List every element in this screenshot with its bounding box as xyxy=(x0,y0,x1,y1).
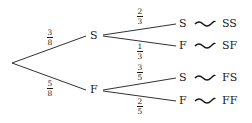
result-fs: FS xyxy=(222,72,237,83)
prob-s-s: 2 3 xyxy=(137,8,143,25)
numerator: 1 xyxy=(138,43,143,51)
node-s: S xyxy=(90,30,98,41)
numerator: 3 xyxy=(138,64,143,72)
numerator: 2 xyxy=(138,98,143,106)
result-ss: SS xyxy=(222,18,237,29)
tilde-ff xyxy=(195,98,215,103)
branch-s-s xyxy=(103,24,176,35)
tilde-ss xyxy=(195,21,215,26)
prob-s-f: 1 3 xyxy=(137,43,143,60)
probability-tree-diagram: S F 3 8 5 8 2 3 1 3 3 5 2 5 S F S F SS S… xyxy=(0,0,252,123)
tilde-fs xyxy=(195,75,215,80)
node-s-f: F xyxy=(179,40,187,51)
tree-branches xyxy=(0,0,252,123)
result-sf: SF xyxy=(222,40,237,51)
node-f-f: F xyxy=(179,95,187,106)
prob-root-s: 3 8 xyxy=(47,29,53,46)
prob-root-f: 5 8 xyxy=(47,80,53,97)
prob-f-s: 3 5 xyxy=(137,64,143,81)
result-ff: FF xyxy=(222,95,237,106)
denominator: 8 xyxy=(48,90,53,98)
node-s-s: S xyxy=(179,18,187,29)
prob-f-f: 2 5 xyxy=(137,98,143,115)
tilde-sf xyxy=(195,43,215,48)
numerator: 3 xyxy=(48,29,53,37)
denominator: 5 xyxy=(138,108,143,116)
numerator: 2 xyxy=(138,8,143,16)
denominator: 5 xyxy=(138,74,143,82)
node-f-s: S xyxy=(179,72,187,83)
denominator: 3 xyxy=(138,53,143,61)
denominator: 8 xyxy=(48,39,53,47)
denominator: 3 xyxy=(138,18,143,26)
numerator: 5 xyxy=(48,80,53,88)
node-f: F xyxy=(90,84,98,95)
